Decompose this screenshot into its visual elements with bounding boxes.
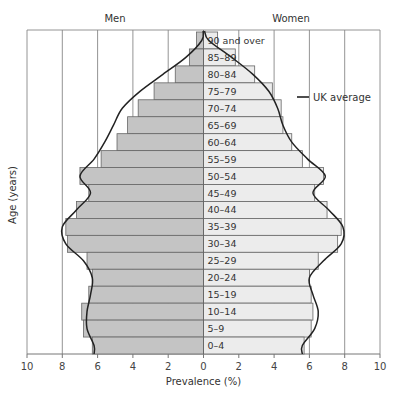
men-bar <box>128 117 204 134</box>
men-bar <box>175 66 203 83</box>
age-label: 5–9 <box>208 323 225 334</box>
men-bar <box>80 168 204 185</box>
tick-label: 8 <box>342 361 348 372</box>
tick-label: 6 <box>94 361 100 372</box>
age-label: 45–49 <box>208 188 237 199</box>
men-bar <box>138 100 203 117</box>
age-label: 25–29 <box>208 255 237 266</box>
men-title: Men <box>104 13 125 24</box>
age-label: 85–89 <box>208 52 237 63</box>
men-bar <box>154 83 203 100</box>
age-label: 60–64 <box>208 137 237 148</box>
tick-label: 2 <box>236 361 242 372</box>
age-label: 0–4 <box>208 340 225 351</box>
men-bar <box>76 201 203 218</box>
tick-label: 2 <box>165 361 171 372</box>
age-label: 10–14 <box>208 306 237 317</box>
tick-label: 0 <box>200 361 206 372</box>
tick-label: 10 <box>21 361 34 372</box>
age-label: 30–34 <box>208 238 237 249</box>
age-label: 75–79 <box>208 86 237 97</box>
age-label: 40–44 <box>208 204 237 215</box>
men-bar <box>82 303 204 320</box>
bars <box>66 30 341 354</box>
age-label: 80–84 <box>208 69 237 80</box>
tick-label: 4 <box>130 361 136 372</box>
legend-label: UK average <box>313 92 371 103</box>
age-label: 15–19 <box>208 289 237 300</box>
men-bar <box>92 269 203 286</box>
y-axis-label: Age (years) <box>7 166 18 224</box>
men-bar <box>101 151 203 168</box>
tick-label: 10 <box>374 361 387 372</box>
x-axis-label: Prevalence (%) <box>166 376 241 387</box>
women-title: Women <box>272 13 310 24</box>
age-label: 90 and over <box>208 35 265 46</box>
men-bar <box>68 235 204 252</box>
tick-label: 6 <box>306 361 312 372</box>
legend: UK average <box>297 92 371 103</box>
age-label: 50–54 <box>208 171 237 182</box>
men-bar <box>89 286 204 303</box>
population-pyramid-chart: 90 and over85–8980–8475–7970–7465–6960–6… <box>0 0 398 397</box>
age-label: 35–39 <box>208 221 237 232</box>
tick-label: 8 <box>59 361 65 372</box>
men-bar <box>83 320 203 337</box>
tick-label: 4 <box>271 361 277 372</box>
men-bar <box>117 134 203 151</box>
men-bar <box>66 218 204 235</box>
men-bar <box>92 337 203 354</box>
age-label: 65–69 <box>208 120 237 131</box>
age-label: 70–74 <box>208 103 237 114</box>
age-label: 20–24 <box>208 272 237 283</box>
men-bar <box>87 252 203 269</box>
men-bar <box>89 185 204 202</box>
age-label: 55–59 <box>208 154 237 165</box>
x-axis-ticks: 1086420246810 <box>21 354 387 372</box>
